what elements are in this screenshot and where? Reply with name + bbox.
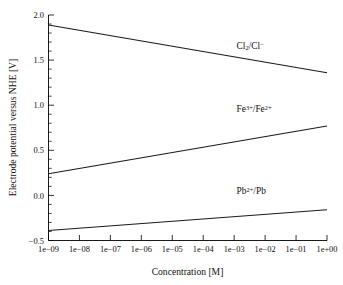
series-line-pb2-pb	[49, 210, 328, 231]
y-tick-label: 1.0	[34, 101, 44, 110]
chart-series	[49, 25, 328, 231]
y-axis-ticks	[49, 15, 55, 241]
x-tick-label: 1e−04	[193, 245, 215, 254]
series-label-fe3-fe2: Fe3+/Fe2+	[237, 104, 272, 114]
x-tick-label: 1e−01	[286, 245, 307, 254]
x-tick-label: 1e−05	[162, 245, 183, 254]
y-tick-label: 2.0	[34, 11, 44, 20]
y-tick-label: 1.5	[34, 56, 44, 65]
y-tick-label: 0.0	[34, 192, 44, 201]
series-line-fe3-fe2	[49, 126, 328, 174]
x-tick-label: 1e−02	[255, 245, 276, 254]
electrode-potential-chart: −0.50.00.51.01.52.0 1e−091e−081e−071e−06…	[0, 0, 343, 285]
x-tick-label: 1e−06	[131, 245, 152, 254]
series-label-pb2-pb: Pb2+/Pb	[237, 186, 267, 196]
chart-canvas: −0.50.00.51.01.52.0 1e−091e−081e−071e−06…	[0, 0, 343, 285]
y-axis-title: Electrode potential versus NHE [V]	[7, 59, 18, 196]
series-line-cl2-cl	[49, 25, 328, 73]
series-inline-labels: Cl2/Cl−Fe3+/Fe2+Pb2+/Pb	[237, 41, 272, 195]
y-axis-tick-labels: −0.50.00.51.01.52.0	[29, 11, 44, 246]
x-axis-ticks	[49, 235, 328, 241]
x-tick-label: 1e−07	[100, 245, 121, 254]
x-tick-label: 1e−09	[38, 245, 59, 254]
x-tick-label: 1e+00	[316, 245, 337, 254]
x-axis-tick-labels: 1e−091e−081e−071e−061e−051e−041e−031e−02…	[38, 245, 338, 254]
series-label-cl2-cl: Cl2/Cl−	[237, 41, 265, 51]
x-tick-label: 1e−03	[224, 245, 245, 254]
x-tick-label: 1e−08	[69, 245, 90, 254]
y-tick-label: 0.5	[34, 146, 44, 155]
x-axis-title: Concentration [M]	[152, 266, 224, 277]
